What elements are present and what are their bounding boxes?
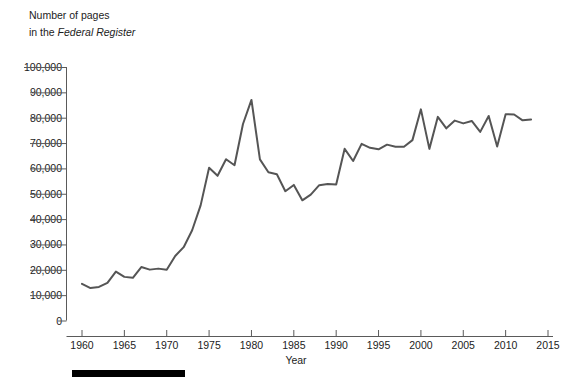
x-axis-tick-label: 1960 xyxy=(70,339,94,351)
x-axis-tick-label: 2000 xyxy=(409,339,433,351)
x-axis-tick-label: 1975 xyxy=(197,339,221,351)
x-axis-tick-label: 1995 xyxy=(367,339,391,351)
x-axis-tick-label: 1980 xyxy=(240,339,264,351)
x-axis-tick-label: 2015 xyxy=(536,339,560,351)
chart-title-line1: Number of pages xyxy=(29,9,110,21)
federal-register-chart-figure: Number of pages in the Federal Register … xyxy=(0,0,571,386)
x-axis-tick-label: 1970 xyxy=(155,339,179,351)
x-axis-tick-label: 2010 xyxy=(494,339,518,351)
data-line-federal-register-pages xyxy=(82,100,531,288)
decorative-rule-bar xyxy=(72,370,185,377)
x-axis-tick-label: 2005 xyxy=(452,339,476,351)
x-axis-tick-label: 1985 xyxy=(282,339,306,351)
x-axis-tick-label: 1965 xyxy=(113,339,137,351)
x-axis-ticks: 1960196519701975198019851990199520002005… xyxy=(70,330,560,351)
chart-title-line2: in the Federal Register xyxy=(29,26,136,38)
chart-title-publication: Federal Register xyxy=(58,26,136,38)
chart-canvas: Number of pages in the Federal Register … xyxy=(0,0,571,386)
y-axis-ticks: 100,00090,00080,00070,00060,00050,00040,… xyxy=(24,61,67,327)
x-axis-tick-label: 1990 xyxy=(325,339,349,351)
x-axis-label: Year xyxy=(285,354,307,366)
chart-title-line2-prefix: in the xyxy=(29,26,58,38)
chart-title: Number of pages in the Federal Register xyxy=(29,9,136,38)
